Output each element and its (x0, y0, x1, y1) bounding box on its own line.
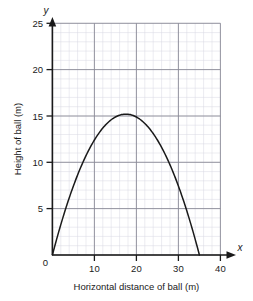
x-tick-label-10: 10 (89, 263, 100, 274)
axes (49, 17, 236, 259)
x-axis-arrowhead (227, 251, 237, 259)
ball-trajectory-curve (52, 114, 199, 255)
y-tick-label-5: 5 (38, 203, 43, 214)
ball-trajectory-chart: 25 20 15 10 5 0 10 20 30 40 y x Horizont… (0, 0, 253, 301)
y-axis-title: Height of ball (m) (12, 103, 23, 175)
x-tick-label-20: 20 (131, 263, 142, 274)
y-tick-label-25: 25 (32, 18, 43, 29)
origin-label: 0 (43, 257, 48, 268)
y-tick-label-10: 10 (32, 157, 43, 168)
y-tick-label-20: 20 (32, 64, 43, 75)
x-axis-title: Horizontal distance of ball (m) (74, 281, 200, 292)
y-axis-variable-name: y (43, 5, 50, 16)
y-tick-label-15: 15 (32, 111, 43, 122)
x-tick-label-40: 40 (215, 263, 226, 274)
x-axis-variable-name: x (237, 242, 244, 253)
tick-marks (47, 23, 221, 261)
chart-canvas: 25 20 15 10 5 0 10 20 30 40 y x Horizont… (0, 0, 253, 301)
x-tick-label-30: 30 (173, 263, 184, 274)
y-axis-arrowhead (49, 17, 57, 27)
